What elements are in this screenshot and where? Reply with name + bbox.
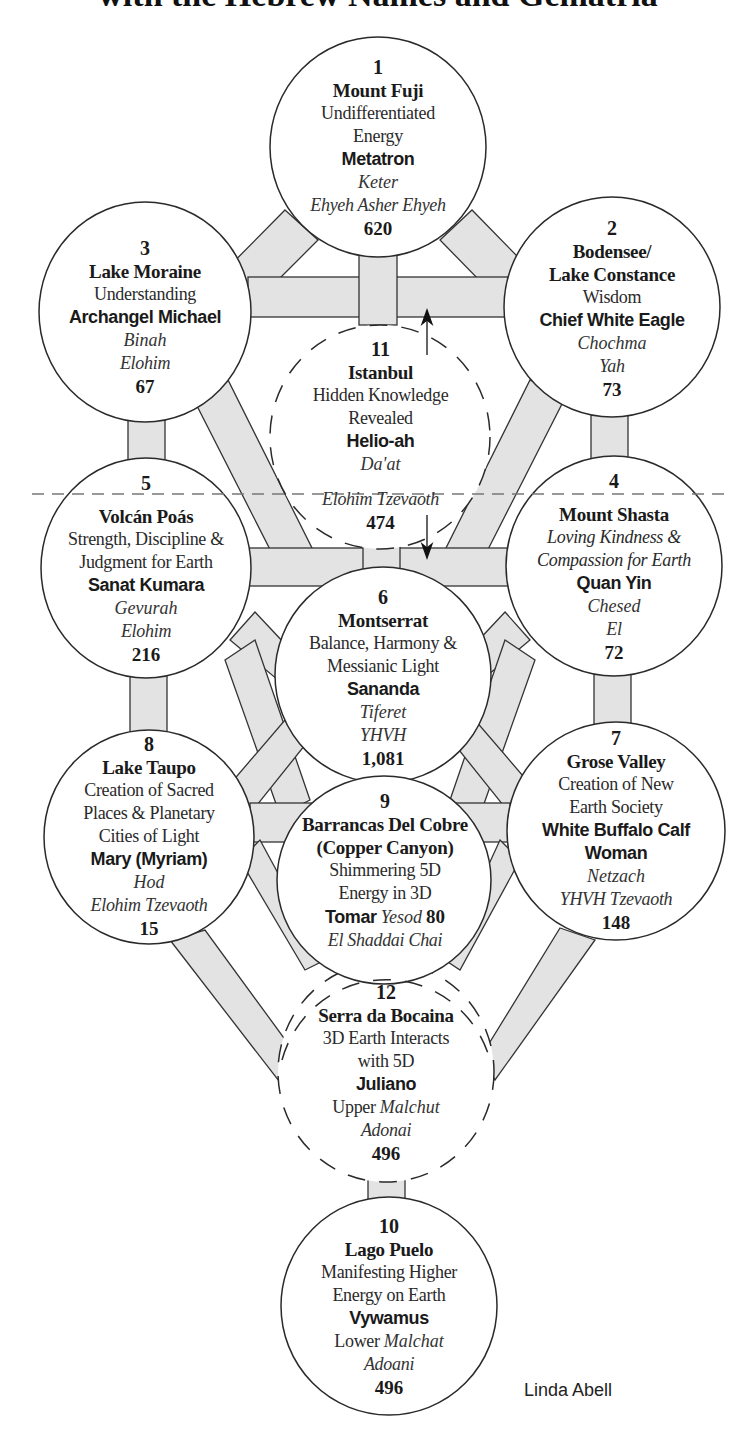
node-gematria: 620 bbox=[364, 217, 393, 241]
node-place: Serra da Bocaina bbox=[318, 1004, 454, 1027]
node-gematria: 474 bbox=[366, 511, 395, 535]
node-number: 9 bbox=[380, 789, 390, 813]
node-sefira: Keter bbox=[358, 171, 398, 194]
node-place: Barrancas Del Cobre bbox=[302, 813, 468, 836]
node-god-name: YHVH bbox=[360, 724, 406, 747]
node-quality: Judgment for Earth bbox=[79, 551, 213, 574]
node-being: Juliano bbox=[356, 1073, 416, 1096]
node-quality: Energy bbox=[353, 125, 403, 148]
node-7: 7 Grose Valley Creation of New Earth Soc… bbox=[510, 730, 722, 930]
node-being: Vywamus bbox=[349, 1307, 429, 1330]
node-2: 2 Bodensee/ Lake Constance Wisdom Chief … bbox=[506, 204, 718, 414]
node-sefira: Malchut bbox=[380, 1097, 440, 1117]
node-6: 6 Montserrat Balance, Harmony & Messiani… bbox=[278, 578, 488, 778]
node-quality: Energy on Earth bbox=[332, 1284, 445, 1307]
path-2-4 bbox=[591, 413, 628, 460]
node-being: Quan Yin bbox=[577, 572, 652, 595]
node-god-name: Elohim Tzevaoth bbox=[91, 894, 208, 917]
node-gematria: 496 bbox=[375, 1376, 404, 1400]
node-quality: Creation of New bbox=[558, 773, 673, 796]
node-god-name: Yah bbox=[599, 355, 624, 378]
node-quality: Hidden Knowledge bbox=[313, 384, 449, 407]
author-credit: Linda Abell bbox=[524, 1380, 612, 1401]
node-god-name: Elohim bbox=[121, 620, 171, 643]
node-place: Bodensee/ bbox=[573, 240, 652, 263]
node-11: 11 Istanbul Hidden Knowledge Revealed He… bbox=[278, 330, 483, 542]
node-place: Mount Shasta bbox=[559, 503, 669, 526]
node-place: Montserrat bbox=[338, 609, 428, 632]
node-number: 10 bbox=[379, 1214, 399, 1238]
node-god-name: Elohim bbox=[120, 352, 170, 375]
node-being: Sananda bbox=[347, 678, 419, 701]
node-sefira: Hod bbox=[134, 871, 165, 894]
node-quality: Wisdom bbox=[583, 286, 641, 309]
node-number: 4 bbox=[609, 469, 619, 493]
node-being: Archangel Michael bbox=[69, 306, 221, 329]
node-quality: Manifesting Higher bbox=[321, 1261, 457, 1284]
node-quality: Undifferentiated bbox=[321, 102, 435, 125]
node-10: 10 Lago Puelo Manifesting Higher Energy … bbox=[286, 1204, 492, 1410]
node-being: Metatron bbox=[342, 148, 415, 171]
node-quality: Cities of Light bbox=[99, 825, 200, 848]
node-god-name: Adoani bbox=[364, 1353, 414, 1376]
node-gematria: 216 bbox=[132, 643, 161, 667]
node-quality: Messianic Light bbox=[327, 655, 439, 678]
node-number: 5 bbox=[141, 471, 151, 495]
node-quality: with 5D bbox=[358, 1050, 414, 1073]
path-1-11 bbox=[359, 250, 397, 325]
node-sefira: Gevurah bbox=[115, 597, 178, 620]
node-quality: Compassion for Earth bbox=[537, 549, 691, 572]
node-quality: Places & Planetary bbox=[83, 802, 215, 825]
node-quality: 3D Earth Interacts bbox=[323, 1027, 450, 1050]
node-place: Mount Fuji bbox=[333, 79, 423, 102]
node-place: Volcán Poás bbox=[99, 505, 194, 528]
path-3-5 bbox=[128, 418, 165, 463]
node-being: Chief White Eagle bbox=[539, 309, 684, 332]
node-being: Tomar bbox=[325, 907, 377, 927]
node-quality: Strength, Discipline & bbox=[68, 528, 224, 551]
node-sefira: Tiferet bbox=[360, 701, 406, 724]
node-place: Lake Taupo bbox=[102, 756, 196, 779]
node-sefira: Binah bbox=[124, 329, 167, 352]
node-god-name: Elohim Tzevaoth bbox=[322, 488, 439, 511]
node-place: Lake Constance bbox=[549, 263, 675, 286]
node-sefira-line: Lower Malchat bbox=[334, 1330, 443, 1353]
path-7-12 bbox=[482, 928, 595, 1080]
node-being: White Buffalo Calf bbox=[542, 819, 690, 842]
node-9: 9 Barrancas Del Cobre (Copper Canyon) Sh… bbox=[280, 785, 490, 955]
node-gematria: 72 bbox=[605, 641, 624, 665]
node-sefira: Yesod bbox=[381, 907, 422, 927]
node-quality: Balance, Harmony & bbox=[309, 632, 457, 655]
node-quality: Loving Kindness & bbox=[547, 526, 681, 549]
node-gematria: 148 bbox=[602, 911, 631, 935]
node-3: 3 Lake Moraine Understanding Archangel M… bbox=[40, 222, 250, 412]
node-quality: Understanding bbox=[94, 283, 196, 306]
node-number: 7 bbox=[611, 726, 621, 750]
node-quality: Earth Society bbox=[569, 796, 663, 819]
node-number: 2 bbox=[607, 216, 617, 240]
node-number: 11 bbox=[371, 337, 390, 361]
node-god-name: YHVH Tzevaoth bbox=[560, 888, 673, 911]
node-12: 12 Serra da Bocaina 3D Earth Interacts w… bbox=[284, 968, 488, 1178]
node-sefira-prefix: Upper bbox=[332, 1097, 375, 1117]
node-number: 1 bbox=[373, 55, 383, 79]
node-place: Lake Moraine bbox=[89, 260, 201, 283]
node-number: 12 bbox=[376, 980, 396, 1004]
path-4-7 bbox=[594, 674, 631, 726]
node-sefira: Netzach bbox=[587, 865, 645, 888]
node-5: 5 Volcán Poás Strength, Discipline & Jud… bbox=[42, 464, 250, 674]
node-gematria: 67 bbox=[136, 375, 155, 399]
node-god-name: Ehyeh Asher Ehyeh bbox=[310, 194, 446, 217]
node-1: 1 Mount Fuji Undifferentiated Energy Met… bbox=[278, 44, 478, 252]
node-gematria: 496 bbox=[372, 1142, 401, 1166]
node-sefira: Da'at bbox=[361, 453, 401, 476]
node-gematria: 15 bbox=[140, 917, 159, 941]
node-8: 8 Lake Taupo Creation of Sacred Places &… bbox=[46, 736, 252, 936]
node-quality: Energy in 3D bbox=[338, 882, 431, 905]
node-quality: Shimmering 5D bbox=[329, 859, 441, 882]
node-being: Sanat Kumara bbox=[88, 574, 204, 597]
node-place: Grose Valley bbox=[567, 750, 666, 773]
node-sefira-line: Upper Malchut bbox=[332, 1096, 439, 1119]
node-4: 4 Mount Shasta Loving Kindness & Compass… bbox=[506, 462, 722, 672]
node-sefira-prefix: Lower bbox=[334, 1331, 379, 1351]
